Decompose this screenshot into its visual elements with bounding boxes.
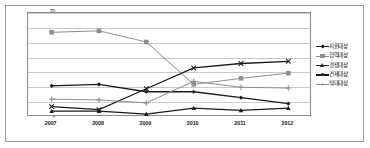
legend-item-label: 경쟁대상 xyxy=(329,63,348,69)
legend-item-label: 견제대상 xyxy=(329,72,348,78)
data-point-square xyxy=(239,76,244,81)
legend-marker-square-icon xyxy=(316,52,329,61)
series-line xyxy=(52,31,289,84)
data-point-diamond xyxy=(286,102,290,106)
data-point-square xyxy=(144,40,149,45)
legend-item-3[interactable]: 경쟁대상 xyxy=(316,61,366,70)
data-point-diamond xyxy=(239,96,243,100)
data-point-square xyxy=(286,71,291,76)
legend-item-4[interactable]: ×견제대상 xyxy=(316,70,366,79)
data-point-plus xyxy=(144,100,149,105)
data-point-plus xyxy=(49,96,54,101)
x-axis-tick-label: 2011 xyxy=(220,120,260,126)
legend-marker-diamond-icon xyxy=(316,42,329,51)
data-point-square xyxy=(97,29,102,34)
legend-item-label: 협력대상 xyxy=(329,53,348,59)
data-point-diamond xyxy=(192,90,196,94)
data-point-plus xyxy=(238,85,243,90)
legend-item-label: 지원대상 xyxy=(329,44,348,50)
legend: 지원대상협력대상경쟁대상×견제대상+적대대상 xyxy=(316,42,366,89)
data-point-plus xyxy=(96,97,101,102)
x-axis-tick-label: 2008 xyxy=(78,120,118,126)
data-point-diamond xyxy=(97,82,101,86)
legend-marker-plus-icon: + xyxy=(316,80,329,89)
legend-item-2[interactable]: 협력대상 xyxy=(316,51,366,60)
series-lines xyxy=(28,13,312,117)
legend-item-5[interactable]: +적대대상 xyxy=(316,80,366,89)
series-line xyxy=(52,61,289,109)
legend-marker-cross-icon: × xyxy=(316,70,329,79)
x-axis-tick-label: 2010 xyxy=(173,120,213,126)
data-point-square xyxy=(49,30,54,35)
x-axis-tick-label: 2009 xyxy=(125,120,165,126)
plot-area xyxy=(27,12,311,116)
x-axis-tick-label: 2012 xyxy=(267,120,307,126)
x-axis-tick-label: 2007 xyxy=(31,120,71,126)
data-point-plus xyxy=(286,85,291,90)
legend-marker-triangle-icon xyxy=(316,61,329,70)
legend-item-1[interactable]: 지원대상 xyxy=(316,42,366,51)
data-point-diamond xyxy=(50,84,54,88)
line-chart: 706050403020100 200720082009201020112012… xyxy=(0,0,370,148)
legend-item-label: 적대대상 xyxy=(329,81,348,87)
